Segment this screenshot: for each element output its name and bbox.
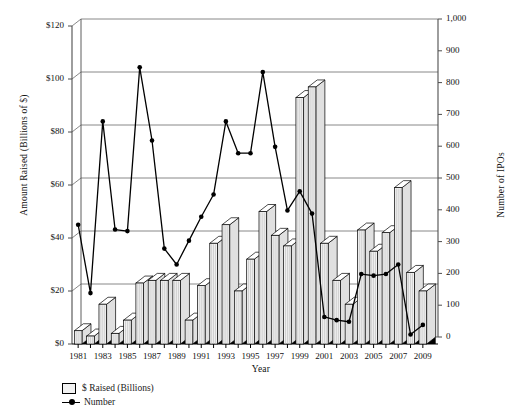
line-marker-icon <box>62 398 80 407</box>
legend-item-number: Number <box>62 395 154 409</box>
plot-area <box>0 0 522 418</box>
legend-label-raised: $ Raised (Billions) <box>82 381 154 395</box>
chart-figure: Amount Raised (Billions of $) Number of … <box>0 0 522 418</box>
chart-legend: $ Raised (Billions) Number <box>62 381 154 409</box>
bar-swatch-icon <box>62 383 76 394</box>
legend-item-raised: $ Raised (Billions) <box>62 381 154 395</box>
legend-label-number: Number <box>84 395 115 409</box>
